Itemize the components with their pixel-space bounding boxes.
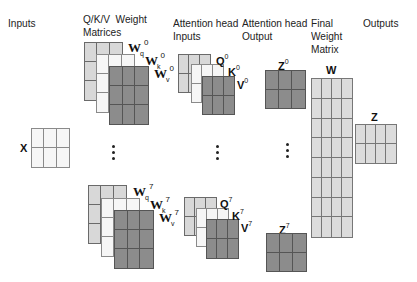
matrix-cell	[128, 211, 141, 230]
matrix-cell	[267, 253, 280, 272]
matrix-cell	[312, 198, 322, 218]
matrix-cell	[342, 158, 352, 178]
matrix-cell	[322, 119, 332, 139]
q0-label: Q0	[216, 52, 228, 67]
matrix-cell	[322, 158, 332, 178]
matrix-cell	[280, 253, 293, 272]
w-label: W	[326, 64, 336, 76]
matrix-cell	[342, 79, 352, 99]
matrix-cell	[213, 77, 223, 96]
x-label: X	[20, 142, 27, 154]
header-attention-head-output: Attention head Output	[242, 17, 307, 43]
matrix-cell	[110, 67, 123, 86]
matrix-cell	[332, 178, 342, 198]
z-output-label: Z	[371, 111, 378, 123]
matrix-cell	[356, 125, 366, 144]
matrix-cell	[322, 79, 332, 99]
header-final-weight-matrix: Final Weight Matrix	[311, 17, 342, 56]
wv7-label: Wv7	[159, 208, 179, 230]
header-qkv-weight-matrices: Q/K/V Weight Matrices	[83, 13, 147, 39]
matrix-cell	[123, 67, 136, 86]
matrix-cell	[332, 198, 342, 218]
v0-label: V0	[237, 76, 248, 91]
matrix-cell	[179, 55, 189, 74]
matrix-cell	[366, 144, 376, 163]
matrix-cell	[128, 249, 141, 268]
header-attention-head-inputs: Attention head Inputs	[173, 17, 238, 43]
matrix-cell	[342, 119, 352, 139]
matrix-cell	[224, 77, 234, 96]
matrix-cell	[332, 158, 342, 178]
matrix-cell	[279, 90, 292, 109]
matrix-cell	[322, 178, 332, 198]
matrix-cell	[312, 99, 322, 119]
matrix-cell	[322, 198, 332, 218]
matrix-cell	[44, 129, 56, 148]
matrix-cell	[293, 234, 306, 253]
matrix-cell	[97, 93, 109, 112]
matrix-cell	[332, 79, 342, 99]
q7-label: Q7	[220, 195, 232, 210]
matrix-cell	[203, 96, 213, 115]
matrix-cell	[102, 218, 114, 237]
matrix-cell	[279, 71, 292, 90]
matrix-cell	[185, 198, 195, 217]
matrix-cell	[192, 65, 202, 84]
matrix-cell	[280, 234, 293, 253]
matrix-cell	[207, 239, 217, 258]
matrix-cell	[213, 96, 223, 115]
matrix-cell	[203, 77, 213, 96]
matrix-cell	[342, 138, 352, 158]
multi-head-attention-diagram: Inputs Q/K/V Weight Matrices Attention h…	[0, 0, 417, 282]
matrix-cell	[292, 71, 305, 90]
matrix-cell	[32, 129, 44, 148]
output-matrix-z	[355, 124, 397, 164]
matrix-cell	[386, 144, 396, 163]
matrix-cell	[123, 105, 136, 124]
matrix-cell	[207, 220, 217, 239]
matrix-cell	[386, 125, 396, 144]
matrix-cell	[366, 125, 376, 144]
matrix-cell	[57, 148, 69, 167]
matrix-cell	[102, 199, 114, 218]
ellipsis-head-outputs	[286, 143, 290, 161]
matrix-cell	[266, 90, 279, 109]
matrix-cell	[110, 105, 123, 124]
matrix-cell	[115, 249, 128, 268]
v7-matrix	[206, 219, 239, 259]
matrix-cell	[135, 86, 148, 105]
matrix-cell	[102, 237, 114, 256]
matrix-cell	[312, 158, 322, 178]
ellipsis-head-inputs	[216, 145, 220, 163]
matrix-cell	[57, 129, 69, 148]
matrix-cell	[312, 79, 322, 99]
header-inputs: Inputs	[8, 17, 36, 30]
matrix-cell	[192, 84, 202, 103]
matrix-cell	[179, 74, 189, 93]
matrix-cell	[44, 148, 56, 167]
wv0-label: Wv0	[154, 64, 174, 86]
wv0-matrix	[109, 66, 149, 125]
matrix-cell	[312, 138, 322, 158]
matrix-cell	[332, 217, 342, 237]
matrix-cell	[332, 119, 342, 139]
matrix-cell	[312, 178, 322, 198]
matrix-cell	[322, 217, 332, 237]
matrix-cell	[312, 217, 322, 237]
matrix-cell	[376, 125, 386, 144]
matrix-cell	[224, 96, 234, 115]
matrix-cell	[97, 74, 109, 93]
matrix-cell	[332, 138, 342, 158]
matrix-cell	[228, 239, 238, 258]
matrix-cell	[322, 99, 332, 119]
matrix-cell	[123, 86, 136, 105]
matrix-cell	[342, 217, 352, 237]
matrix-cell	[110, 86, 123, 105]
matrix-cell	[293, 253, 306, 272]
matrix-cell	[217, 239, 227, 258]
ellipsis-weights	[112, 145, 116, 163]
v7-label: V7	[241, 219, 252, 234]
matrix-cell	[322, 138, 332, 158]
matrix-cell	[266, 71, 279, 90]
matrix-cell	[140, 249, 153, 268]
